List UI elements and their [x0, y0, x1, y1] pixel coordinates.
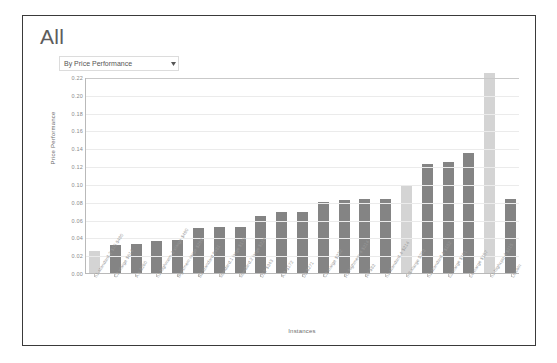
grid-line: [86, 221, 519, 222]
price-performance-bar-chart: Price Performance 0.220.200.180.160.140.…: [23, 78, 536, 346]
grid-line: [86, 78, 519, 79]
grid-line: [86, 167, 519, 168]
y-axis-tick-label: 0.20: [59, 93, 83, 99]
bar[interactable]: [401, 186, 412, 273]
bar[interactable]: [380, 199, 391, 273]
grid-line: [86, 114, 519, 115]
y-axis-title: Price Performance: [50, 98, 56, 178]
grid-line: [86, 149, 519, 150]
grid-line: [86, 203, 519, 204]
bar[interactable]: [339, 200, 350, 273]
y-axis-tick-label: 0.22: [59, 75, 83, 81]
y-axis-tick-label: 0.18: [59, 111, 83, 117]
y-axis-tick-label: 0.12: [59, 164, 83, 170]
y-axis-tick-label: 0.00: [59, 271, 83, 277]
y-axis-tick-label: 0.06: [59, 218, 83, 224]
grid-line: [86, 256, 519, 257]
grid-line: [86, 96, 519, 97]
bar[interactable]: [359, 199, 370, 273]
bar[interactable]: [505, 199, 516, 273]
y-axis-tick-label: 0.02: [59, 253, 83, 259]
grid-line: [86, 131, 519, 132]
chevron-down-icon: [168, 62, 178, 66]
sort-by-select-value: By Price Performance: [60, 60, 168, 67]
x-axis-labels: n1-standard-2 $15 $490C2 xlarge $614A.s …: [85, 276, 519, 332]
y-axis-tick-label: 0.04: [59, 235, 83, 241]
bar[interactable]: [484, 73, 495, 273]
grid-line: [86, 185, 519, 186]
x-axis-title: Instances: [85, 328, 519, 334]
bar[interactable]: [318, 202, 329, 273]
plot-area: [85, 78, 519, 274]
page-title: All: [40, 24, 64, 50]
sort-by-select[interactable]: By Price Performance: [59, 56, 179, 71]
y-axis-tick-label: 0.08: [59, 200, 83, 206]
bar-series: [86, 78, 519, 273]
y-axis-tick-label: 0.14: [59, 146, 83, 152]
y-axis-ticks: 0.220.200.180.160.140.120.100.080.060.04…: [57, 78, 83, 274]
y-axis-tick-label: 0.16: [59, 128, 83, 134]
chart-card: All By Price Performance Price Performan…: [22, 15, 536, 346]
y-axis-tick-label: 0.10: [59, 182, 83, 188]
grid-line: [86, 238, 519, 239]
